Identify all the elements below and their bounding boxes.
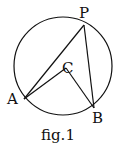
label-a: A — [6, 90, 18, 108]
label-p: P — [79, 4, 89, 22]
figure-caption: fig.1 — [41, 126, 75, 144]
segment-pa — [24, 25, 84, 99]
label-c: C — [62, 59, 73, 77]
geometry-diagram: P A B C fig.1 — [0, 0, 118, 145]
label-b: B — [92, 109, 103, 127]
